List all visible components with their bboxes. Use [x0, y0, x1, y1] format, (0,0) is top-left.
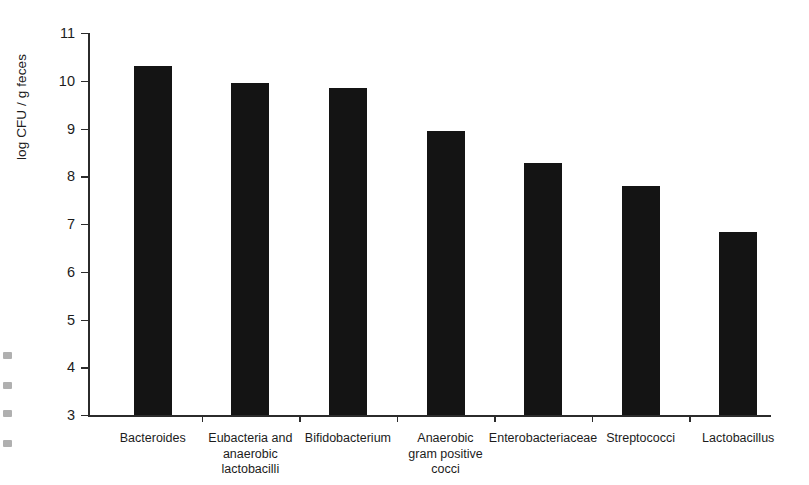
bar [427, 131, 465, 415]
bar [329, 88, 367, 415]
bar [719, 232, 757, 415]
x-axis-tick [592, 415, 593, 422]
bar [622, 186, 660, 415]
x-axis-category-label: Bacteroides [98, 431, 208, 447]
x-axis-category-label-line: Eubacteria and [196, 431, 306, 447]
x-axis-tick [299, 415, 300, 422]
y-axis-tick-label: 3 [51, 405, 75, 425]
x-axis-category-label: Enterobacteriaceae [488, 431, 598, 447]
x-axis-category-label-line: Bacteroides [98, 431, 208, 447]
x-axis-category-label-line: anaerobic [196, 447, 306, 463]
x-axis-category-label-line: Streptococci [586, 431, 696, 447]
x-axis-category-label: Eubacteria andanaerobiclactobacilli [196, 431, 306, 478]
y-axis-tick-label: 7 [51, 214, 75, 234]
y-axis-tick: 4 [81, 367, 88, 368]
x-axis-tick [494, 415, 495, 422]
y-axis-tick-label: 6 [51, 262, 75, 282]
y-axis-tick: 11 [81, 33, 88, 34]
x-axis-category-label: Bifidobacterium [293, 431, 403, 447]
scan-edge-artifact [3, 440, 12, 447]
bar [231, 83, 269, 415]
x-axis-tick [689, 415, 690, 422]
chart-figure: log CFU / g feces 34567891011 Bacteroide… [0, 0, 809, 485]
y-axis-tick: 5 [81, 320, 88, 321]
y-axis-tick: 3 [81, 415, 88, 416]
y-axis-tick: 6 [81, 272, 88, 273]
x-axis-category-label-line: Anaerobic [391, 431, 501, 447]
x-axis-category-label-line: Lactobacillus [683, 431, 793, 447]
y-axis-tick-label: 8 [51, 166, 75, 186]
x-axis-category-label-line: cocci [391, 462, 501, 478]
x-axis-category-label-line: Enterobacteriaceae [488, 431, 598, 447]
x-axis-category-label: Streptococci [586, 431, 696, 447]
plot-area: 34567891011 BacteroidesEubacteria andana… [88, 33, 771, 415]
y-axis-tick: 10 [81, 81, 88, 82]
y-axis-tick-label: 5 [51, 310, 75, 330]
x-axis-tick [202, 415, 203, 422]
x-axis-category-label: Anaerobicgram positivecocci [391, 431, 501, 478]
scan-edge-artifact [3, 352, 12, 359]
x-axis-line [88, 415, 771, 417]
y-axis-tick: 9 [81, 129, 88, 130]
y-axis-line [88, 33, 90, 415]
x-axis-category-label-line: lactobacilli [196, 462, 306, 478]
bar [524, 163, 562, 415]
x-axis-category-label-line: gram positive [391, 447, 501, 463]
y-axis-tick: 8 [81, 176, 88, 177]
y-axis-tick-label: 10 [51, 71, 75, 91]
y-axis-tick-label: 9 [51, 119, 75, 139]
x-axis-category-label-line: Bifidobacterium [293, 431, 403, 447]
y-axis-tick-label: 11 [51, 23, 75, 43]
x-axis-category-label: Lactobacillus [683, 431, 793, 447]
bar [134, 66, 172, 415]
scan-edge-artifact [3, 410, 12, 417]
x-axis-tick [397, 415, 398, 422]
y-axis-label: log CFU / g feces [14, 0, 29, 160]
y-axis-tick: 7 [81, 224, 88, 225]
scan-edge-artifact [3, 382, 12, 389]
y-axis-tick-label: 4 [51, 357, 75, 377]
